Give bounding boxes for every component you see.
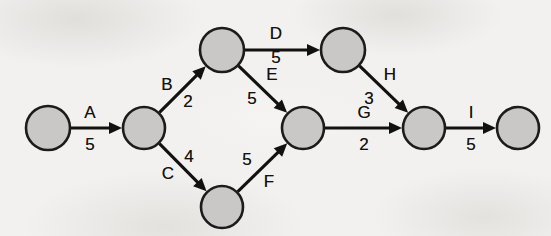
arrow-head-I [483, 122, 496, 134]
edge-G [325, 122, 402, 134]
edge-A [71, 122, 122, 134]
edge-label-duration-C: 4 [184, 148, 193, 165]
node-n2 [123, 107, 165, 149]
network-diagram-canvas: A5B2C4D5E5F5G2H3I5 [0, 0, 551, 236]
edge-label-duration-G: 2 [359, 136, 368, 153]
edge-label-name-C: C [162, 165, 174, 182]
node-n5 [282, 107, 324, 149]
edge-E [239, 66, 288, 113]
node-n6 [403, 107, 445, 149]
arrow-head-A [109, 122, 122, 134]
arrow-head-D [307, 44, 320, 56]
node-n3 [200, 28, 244, 72]
node-n7 [497, 107, 539, 149]
node-n1 [26, 106, 70, 150]
arrow-head-G [389, 122, 402, 134]
edge-label-duration-F: 5 [242, 151, 251, 168]
edge-label-duration-H: 3 [364, 90, 373, 107]
edge-label-duration-B: 2 [183, 93, 192, 110]
edge-label-duration-A: 5 [85, 136, 94, 153]
edge-label-duration-I: 5 [466, 136, 475, 153]
edge-label-name-D: D [270, 25, 282, 42]
edge-I [446, 122, 496, 134]
edge-label-name-B: B [161, 76, 172, 93]
edge-D [245, 44, 320, 56]
edge-label-name-E: E [266, 66, 277, 83]
node-n4 [321, 28, 365, 72]
edge-label-duration-D: 5 [271, 49, 280, 66]
edge-label-name-I: I [469, 104, 474, 121]
edge-label-duration-E: 5 [247, 90, 256, 107]
edge-label-name-H: H [384, 66, 396, 83]
edge-label-name-A: A [84, 104, 95, 121]
node-n8 [201, 186, 243, 228]
edge-label-name-F: F [264, 173, 274, 190]
